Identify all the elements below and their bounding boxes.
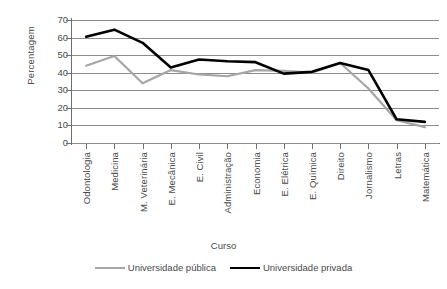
- y-axis-title: Percentagem: [25, 0, 36, 116]
- plot-area: [72, 20, 439, 143]
- x-tick-mark: [199, 144, 200, 149]
- x-tick-label-11: Jornalismo: [361, 152, 375, 236]
- x-tick-label-2: Medicina: [107, 152, 121, 236]
- legend-label: Universidade pública: [128, 263, 216, 273]
- series-container: [72, 20, 439, 143]
- y-tick-mark: [66, 143, 72, 144]
- y-tick-mark: [66, 90, 72, 91]
- y-tick-label: 50: [46, 50, 68, 60]
- x-tick-label-text: Direito: [335, 152, 346, 180]
- legend-swatch-icon: [95, 267, 125, 269]
- y-tick-label: 10: [46, 120, 68, 130]
- x-tick-mark: [171, 144, 172, 149]
- x-tick-label-10: Direito: [333, 152, 347, 236]
- x-tick-label-13: Matemática: [418, 152, 432, 236]
- x-tick-label-text: Administração: [222, 152, 233, 214]
- x-tick-label-text: Jornalismo: [363, 152, 374, 199]
- y-tick-label: 40: [46, 68, 68, 78]
- x-tick-mark: [86, 144, 87, 149]
- y-tick-label: 20: [46, 103, 68, 113]
- legend-entry-2[interactable]: Universidade privada: [230, 263, 352, 273]
- x-tick-mark: [256, 144, 257, 149]
- y-tick-mark: [66, 108, 72, 109]
- y-tick-mark: [66, 38, 72, 39]
- x-tick-label-9: E. Química: [305, 152, 319, 236]
- x-tick-mark: [284, 144, 285, 149]
- x-tick-mark: [227, 144, 228, 149]
- y-tick-mark: [66, 125, 72, 126]
- x-tick-label-text: Economia: [250, 152, 261, 195]
- x-tick-label-text: E. Civil: [194, 152, 205, 182]
- y-tick-mark: [66, 55, 72, 56]
- y-tick-mark: [66, 73, 72, 74]
- chart-legend: Universidade públicaUniversidade privada: [0, 263, 447, 273]
- x-tick-label-text: E. Elétrica: [278, 152, 289, 196]
- y-tick-mark: [66, 20, 72, 21]
- x-tick-label-4: E. Mecânica: [164, 152, 178, 236]
- y-tick-label: 30: [46, 85, 68, 95]
- x-tick-label-text: E. Química: [306, 152, 317, 200]
- x-tick-mark: [425, 144, 426, 149]
- x-tick-label-text: Medicina: [109, 152, 120, 191]
- x-tick-label-8: E. Elétrica: [277, 152, 291, 236]
- x-tick-label-6: Administração: [220, 152, 234, 236]
- x-tick-label-7: Economia: [249, 152, 263, 236]
- x-tick-mark: [114, 144, 115, 149]
- series-line-1: [86, 56, 425, 127]
- legend-swatch-icon: [230, 267, 260, 269]
- legend-entry-1[interactable]: Universidade pública: [95, 263, 216, 273]
- chart-figure: Percentagem 706050403020100 OdontologiaM…: [0, 0, 447, 289]
- x-tick-label-text: Letras: [391, 152, 402, 179]
- y-tick-label: 60: [46, 33, 68, 43]
- x-axis-title: Curso: [0, 240, 447, 251]
- series-line-2: [86, 30, 425, 122]
- x-tick-label-3: M. Veterinária: [136, 152, 150, 236]
- x-tick-mark: [312, 144, 313, 149]
- x-tick-mark: [397, 144, 398, 149]
- x-tick-label-text: Matemática: [419, 152, 430, 202]
- x-tick-label-1: Odontologia: [79, 152, 93, 236]
- legend-label: Universidade privada: [263, 263, 352, 273]
- y-tick-label: 70: [46, 15, 68, 25]
- x-tick-mark: [143, 144, 144, 149]
- x-tick-mark: [340, 144, 341, 149]
- y-tick-label: 0: [46, 138, 68, 148]
- x-tick-label-text: M. Veterinária: [137, 152, 148, 212]
- x-tick-mark: [368, 144, 369, 149]
- x-tick-label-text: E. Mecânica: [165, 152, 176, 205]
- x-tick-label-5: E. Civil: [192, 152, 206, 236]
- x-tick-label-text: Odontologia: [81, 152, 92, 204]
- x-tick-label-12: Letras: [390, 152, 404, 236]
